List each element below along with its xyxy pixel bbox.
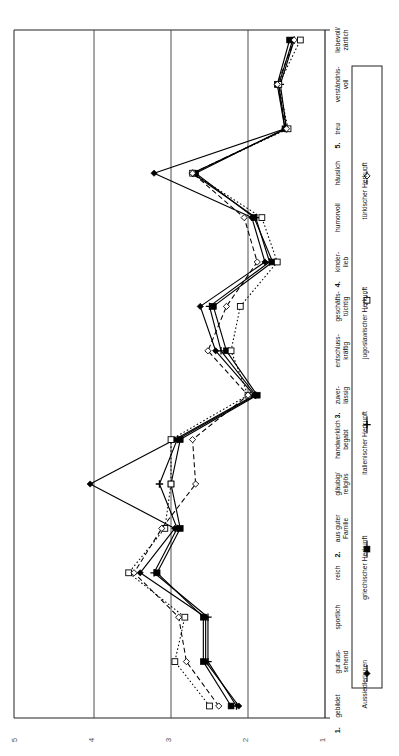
category-number: 3.: [333, 413, 342, 419]
category-label: verständnis-: [334, 66, 341, 102]
axis-tick-label: 3: [164, 737, 173, 742]
category-number: 4.: [333, 281, 342, 287]
category-label: zärtlich: [342, 29, 349, 50]
data-point-marker: [172, 659, 178, 665]
category-label: sportlich: [334, 605, 342, 630]
data-point-marker: [259, 215, 265, 221]
data-point-marker: [176, 614, 182, 620]
data-point-marker: [237, 304, 243, 310]
category-label: zuver-: [334, 386, 341, 404]
category-label: kinder-: [334, 252, 341, 272]
data-point-marker: [228, 348, 234, 354]
category-label: treu: [334, 123, 341, 135]
legend-label: türkischer Herkunft: [361, 162, 368, 219]
data-point-marker: [254, 259, 260, 265]
category-number: 2.: [333, 552, 342, 558]
axis-tick-label: 5: [10, 737, 19, 742]
category-label: reich: [334, 565, 341, 580]
category-label: gebildet: [334, 694, 342, 717]
category-label: religiös: [342, 473, 350, 495]
data-point-marker: [87, 481, 93, 487]
category-label: häuslich: [334, 161, 341, 186]
legend-item[interactable]: italienischer Herkunft: [361, 411, 371, 475]
category-number: 5.: [333, 142, 342, 148]
category-label: humorvoll: [334, 203, 341, 232]
category-label: aus guter: [334, 514, 342, 542]
data-point-marker: [168, 437, 174, 443]
series-line: [157, 40, 289, 706]
legend-label: italienischer Herkunft: [361, 411, 368, 475]
category-label: lieb: [342, 257, 349, 268]
category-label: voll: [342, 79, 349, 89]
series-line: [154, 40, 294, 706]
data-point-marker: [151, 170, 157, 176]
category-label: handwerklich: [334, 420, 341, 459]
legend-label: jugoslawischer Herkunft: [361, 287, 369, 360]
category-label: gut aus-: [334, 650, 342, 674]
data-point-marker: [168, 481, 174, 487]
category-label: liebevoll/: [334, 27, 341, 53]
series-3: [150, 36, 298, 709]
series-2: [154, 37, 292, 709]
series-4: [126, 37, 304, 709]
series-1: [87, 37, 296, 709]
axis-tick-label: 2: [241, 737, 250, 742]
axis-tick-label: 1: [318, 737, 327, 742]
legend-item[interactable]: Aussiedlerinnen: [361, 660, 370, 709]
rotated-line-chart: 54321gebildet1.gut aus-sehendsportlichre…: [0, 0, 399, 756]
legend-item[interactable]: türkischer Herkunft: [361, 162, 370, 219]
category-label: sehend: [342, 650, 349, 672]
category-label: entschluss-: [334, 334, 341, 367]
category-label: gläubig/: [334, 472, 342, 495]
series-line: [129, 40, 301, 706]
category-label: geschäfts-: [334, 291, 342, 321]
data-point-marker: [297, 37, 303, 43]
data-point-marker: [189, 437, 195, 443]
series-5: [131, 37, 297, 709]
plot-frame: [14, 30, 330, 718]
legend-item[interactable]: griechischer Herkunft: [361, 535, 370, 599]
data-point-marker: [274, 259, 280, 265]
series-line: [134, 40, 294, 706]
category-label: kräftig: [342, 341, 350, 359]
category-label: begabt: [342, 429, 350, 449]
category-label: lässig: [342, 386, 350, 403]
data-point-marker: [182, 614, 188, 620]
data-point-marker: [223, 303, 229, 309]
category-label: tüchtig: [342, 296, 350, 316]
legend-label: Aussiedlerinnen: [361, 660, 368, 709]
axis-tick-label: 4: [87, 737, 96, 742]
legend-label: griechischer Herkunft: [361, 535, 369, 599]
category-number: 1.: [333, 727, 342, 733]
chart-root: 54321gebildet1.gut aus-sehendsportlichre…: [0, 0, 399, 756]
category-label: Familie: [342, 517, 349, 539]
data-point-marker: [207, 703, 213, 709]
legend-item[interactable]: jugoslawischer Herkunft: [361, 287, 370, 360]
data-point-marker: [156, 480, 163, 487]
